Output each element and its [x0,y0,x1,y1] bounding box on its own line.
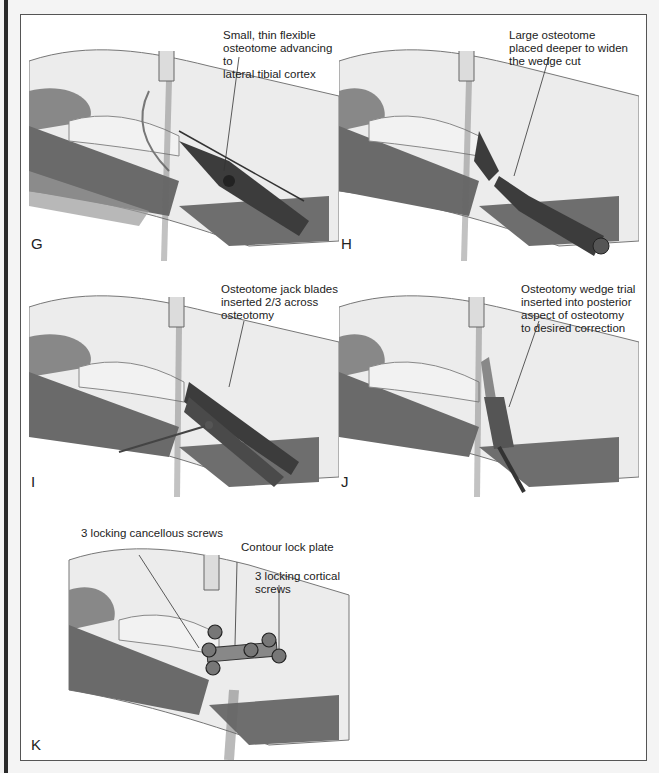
callout-j: Osteotomy wedge trial inserted into post… [521,283,635,335]
callout-k-contour-lock-plate: Contour lock plate [241,541,334,554]
panel-i: Osteotome jack blades inserted 2/3 acros… [29,277,339,497]
panel-letter-g: G [31,235,43,252]
panel-letter-h: H [341,235,352,252]
page-edge-rule [4,0,8,773]
panel-letter-j: J [341,473,349,490]
panel-letter-k: K [31,736,41,753]
knee-illustration-k [29,520,359,760]
figure-frame: Small, thin flexible osteotome advancing… [20,14,647,761]
callout-i: Osteotome jack blades inserted 2/3 acros… [221,283,338,322]
panel-j: Osteotomy wedge trial inserted into post… [339,277,639,497]
callout-k-cancellous-screws: 3 locking cancellous screws [81,527,223,540]
callout-h: Large osteotome placed deeper to widen t… [509,29,628,68]
panel-h: Large osteotome placed deeper to widen t… [339,21,639,261]
panel-g: Small, thin flexible osteotome advancing… [29,21,339,261]
panel-letter-i: I [31,473,35,490]
callout-g: Small, thin flexible osteotome advancing… [223,29,339,81]
callout-k-cortical-screws: 3 locking cortical screws [255,570,359,596]
panel-k: 3 locking cancellous screws Contour lock… [29,520,359,760]
